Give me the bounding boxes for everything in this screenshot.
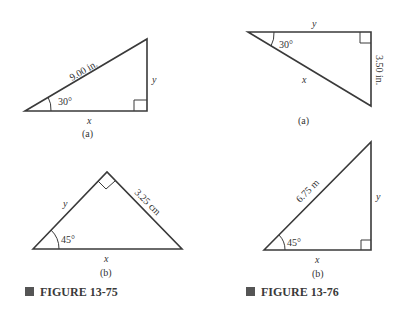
- vertical-label: y: [375, 191, 381, 202]
- angle-label: 45°: [61, 234, 75, 245]
- figures-canvas: 9.00 in. 30° y x (a) 3.25 cm y 45° x (b)…: [0, 0, 411, 314]
- triangle-13-76b: 6.75 m 45° y x (b): [264, 142, 381, 280]
- svg-text:FIGURE 13-76: FIGURE 13-76: [261, 285, 339, 299]
- vertical-side-label: 3.50 in.: [374, 55, 385, 85]
- horizontal-label: x: [314, 254, 320, 265]
- part-label: (b): [312, 268, 324, 280]
- angle-label: 30°: [58, 96, 72, 107]
- triangle-13-75a: 9.00 in. 30° y x (a): [25, 39, 157, 140]
- angle-label: 30°: [279, 39, 293, 50]
- triangle-13-75b: 3.25 cm y 45° x (b): [33, 172, 182, 279]
- figure-caption-13-76: FIGURE 13-76: [246, 285, 339, 299]
- part-label: (b): [100, 267, 112, 279]
- figure-caption-13-75: FIGURE 13-75: [25, 285, 118, 299]
- svg-text:FIGURE 13-75: FIGURE 13-75: [40, 285, 118, 299]
- angle-label: 45°: [287, 237, 301, 248]
- hypotenuse-label: 6.75 m: [294, 177, 322, 205]
- triangle-13-76a: y 30° x 3.50 in. (a): [248, 18, 385, 127]
- horizontal-label: x: [86, 115, 92, 126]
- other-side-label: y: [62, 198, 68, 209]
- part-label: (a): [298, 115, 309, 127]
- bullet-icon: [25, 287, 34, 296]
- vertical-label: y: [151, 74, 157, 85]
- hypotenuse-label: x: [301, 74, 307, 85]
- base-label: x: [103, 253, 109, 264]
- top-label: y: [311, 18, 317, 29]
- part-label: (a): [82, 128, 93, 140]
- bullet-icon: [246, 287, 255, 296]
